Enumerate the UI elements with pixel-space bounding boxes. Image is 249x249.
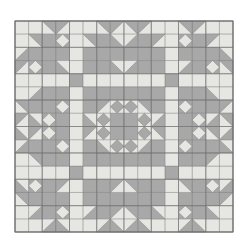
quilt-patch xyxy=(179,74,193,87)
quilt-root xyxy=(15,21,233,232)
quilt-patch xyxy=(165,206,179,219)
quilt-patch xyxy=(124,113,138,126)
quilt-patch xyxy=(110,113,124,126)
quilt-patch xyxy=(206,47,220,60)
quilt-patch xyxy=(192,47,206,60)
quilt-patch xyxy=(42,166,56,179)
quilt-patch xyxy=(70,153,84,166)
quilt-patch xyxy=(179,153,193,166)
quilt-patch xyxy=(151,153,165,166)
quilt-patch xyxy=(70,179,84,192)
quilt-patch xyxy=(192,87,206,100)
quilt-patch xyxy=(192,100,206,113)
quilt-patch xyxy=(219,21,233,34)
quilt-patch xyxy=(192,74,206,87)
quilt-patch xyxy=(179,192,193,205)
quilt-patch xyxy=(219,87,233,100)
quilt-patch xyxy=(83,153,97,166)
quilt-patch xyxy=(15,34,29,47)
quilt-patch xyxy=(206,166,220,179)
quilt-patch xyxy=(124,127,138,140)
quilt-patch xyxy=(97,74,111,87)
quilt-patch xyxy=(29,192,43,205)
quilt-patch xyxy=(70,219,84,232)
quilt-patch xyxy=(56,113,70,126)
quilt-patch xyxy=(151,179,165,192)
quilt-patch xyxy=(124,192,138,205)
quilt-patch xyxy=(165,100,179,113)
quilt-patch xyxy=(83,179,97,192)
quilt-patch xyxy=(219,34,233,47)
quilt-patch xyxy=(56,127,70,140)
quilt-patch xyxy=(56,47,70,60)
quilt-patch xyxy=(97,153,111,166)
quilt-patch xyxy=(151,166,165,179)
quilt-patch xyxy=(83,61,97,74)
quilt-patch xyxy=(206,21,220,34)
quilt-patch xyxy=(165,166,179,179)
quilt-patch xyxy=(165,74,179,87)
quilt-patch xyxy=(97,206,111,219)
quilt-patch xyxy=(83,47,97,60)
quilt-patch xyxy=(192,206,206,219)
quilt-patch xyxy=(83,166,97,179)
quilt-patch xyxy=(56,153,70,166)
quilt-patch xyxy=(206,219,220,232)
quilt-patch xyxy=(70,47,84,60)
quilt-svg: Geometric patchwork quilt block pattern xyxy=(0,0,249,249)
quilt-patch xyxy=(42,206,56,219)
quilt-patch xyxy=(192,140,206,153)
quilt-patch xyxy=(206,192,220,205)
quilt-patch xyxy=(206,140,220,153)
quilt-patch xyxy=(70,206,84,219)
quilt-patch xyxy=(219,166,233,179)
quilt-patch xyxy=(192,192,206,205)
quilt-patch xyxy=(165,219,179,232)
quilt-patch xyxy=(138,206,152,219)
quilt-patch xyxy=(70,113,84,126)
quilt-patch xyxy=(179,113,193,126)
quilt-patch xyxy=(29,74,43,87)
quilt-patch xyxy=(192,166,206,179)
quilt-patch xyxy=(70,21,84,34)
quilt-patch xyxy=(151,100,165,113)
quilt-patch xyxy=(219,219,233,232)
quilt-patch xyxy=(97,47,111,60)
quilt-patch xyxy=(70,87,84,100)
quilt-patch xyxy=(124,153,138,166)
quilt-patch xyxy=(138,87,152,100)
quilt-patch xyxy=(110,127,124,140)
quilt-patch xyxy=(70,61,84,74)
quilt-patch xyxy=(165,113,179,126)
quilt-patch xyxy=(219,206,233,219)
quilt-patch xyxy=(138,166,152,179)
quilt-patch xyxy=(110,166,124,179)
quilt-patch xyxy=(124,166,138,179)
quilt-patch xyxy=(165,192,179,205)
quilt-patch xyxy=(83,192,97,205)
quilt-patch xyxy=(15,153,29,166)
quilt-patch xyxy=(29,140,43,153)
quilt-patch xyxy=(29,219,43,232)
quilt-patch xyxy=(192,153,206,166)
quilt-patch xyxy=(83,100,97,113)
quilt-patch xyxy=(165,127,179,140)
quilt-patch xyxy=(151,87,165,100)
quilt-patch xyxy=(56,87,70,100)
quilt-patch xyxy=(138,192,152,205)
quilt-patch xyxy=(29,166,43,179)
quilt-patch xyxy=(124,87,138,100)
quilt-patch xyxy=(70,140,84,153)
quilt-patch xyxy=(56,192,70,205)
quilt-patch xyxy=(151,47,165,60)
quilt-patch xyxy=(138,179,152,192)
quilt-patch xyxy=(83,219,97,232)
quilt-patch xyxy=(42,34,56,47)
quilt-patch xyxy=(83,21,97,34)
quilt-patch xyxy=(179,127,193,140)
quilt-patch xyxy=(42,192,56,205)
quilt-patch xyxy=(151,140,165,153)
quilt-patch xyxy=(42,87,56,100)
quilt-patch xyxy=(42,100,56,113)
quilt-patch xyxy=(151,61,165,74)
